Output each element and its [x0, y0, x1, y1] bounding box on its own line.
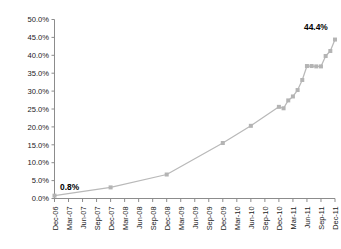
x-axis-tick-label: Mar-10	[233, 207, 242, 230]
y-axis-tick-label: 0.0%	[32, 194, 50, 203]
y-axis-tick-label: 5.0%	[32, 176, 50, 185]
data-point-marker	[249, 124, 253, 128]
annotations: 0.8%44.4%	[60, 22, 328, 193]
data-point-marker	[333, 38, 337, 42]
line-chart: 0.0%5.0%10.0%15.0%20.0%25.0%30.0%35.0%40…	[0, 0, 341, 249]
y-axis-tick-label: 25.0%	[27, 105, 49, 114]
x-axis-tick-label: Sep-08	[149, 207, 158, 231]
x-axis-tick-label: Jun-11	[303, 207, 312, 229]
y-axis-tick-label: 45.0%	[27, 33, 49, 42]
series-line-cumulative	[55, 40, 336, 196]
x-axis-tick-label: Mar-09	[177, 207, 186, 230]
data-point-marker	[282, 106, 286, 110]
x-axis-tick-label: Sep-11	[317, 207, 326, 230]
data-point-marker	[221, 141, 225, 145]
data-point-marker	[305, 64, 309, 68]
x-axis-tick-label: Dec-10	[275, 207, 284, 231]
x-axis-tick-label: Dec-11	[331, 207, 340, 230]
data-point-marker	[286, 98, 290, 102]
first-point-label: 0.8%	[60, 182, 80, 192]
data-point-marker	[328, 49, 332, 53]
x-axis-tick-label: Jun-07	[79, 207, 88, 230]
data-point-marker	[109, 185, 113, 189]
x-axis-tick-label: Dec-09	[219, 207, 228, 231]
y-axis-tick-label: 50.0%	[27, 15, 49, 24]
x-axis-tick-label: Dec-06	[51, 207, 60, 231]
data-point-marker	[310, 64, 314, 68]
y-axis: 0.0%5.0%10.0%15.0%20.0%25.0%30.0%35.0%40…	[27, 15, 54, 203]
y-axis-tick-label: 10.0%	[27, 158, 49, 167]
y-axis-tick-label: 15.0%	[27, 141, 49, 150]
data-point-marker	[277, 105, 281, 109]
x-axis-tick-label: Jun-10	[247, 207, 256, 230]
x-axis-tick-label: Sep-10	[261, 207, 270, 231]
data-point-marker	[314, 64, 318, 68]
data-point-marker	[53, 194, 57, 198]
data-point-marker	[296, 88, 300, 92]
data-point-marker	[291, 94, 295, 98]
last-point-label: 44.4%	[304, 22, 328, 32]
y-axis-tick-label: 35.0%	[27, 69, 49, 78]
x-axis-tick-label: Mar-08	[121, 207, 130, 230]
x-axis-tick-label: Mar-11	[289, 207, 298, 230]
x-axis-tick-label: Dec-07	[107, 207, 116, 231]
x-axis-tick-label: Jun-08	[135, 207, 144, 230]
chart-container: 0.0%5.0%10.0%15.0%20.0%25.0%30.0%35.0%40…	[0, 0, 341, 249]
data-series	[53, 38, 338, 198]
data-point-marker	[319, 64, 323, 68]
data-point-marker	[165, 173, 169, 177]
data-point-marker	[324, 54, 328, 58]
y-axis-tick-label: 30.0%	[27, 87, 49, 96]
x-axis-tick-label: Sep-09	[205, 207, 214, 231]
data-point-marker	[300, 78, 304, 82]
x-axis-tick-label: Mar-07	[65, 207, 74, 230]
y-axis-tick-label: 40.0%	[27, 51, 49, 60]
x-axis-tick-label: Jun-09	[191, 207, 200, 230]
x-axis-tick-label: Sep-07	[93, 207, 102, 231]
y-axis-tick-label: 20.0%	[27, 123, 49, 132]
x-axis: Dec-06Mar-07Jun-07Sep-07Dec-07Mar-08Jun-…	[51, 199, 341, 231]
x-axis-tick-label: Dec-08	[163, 207, 172, 231]
